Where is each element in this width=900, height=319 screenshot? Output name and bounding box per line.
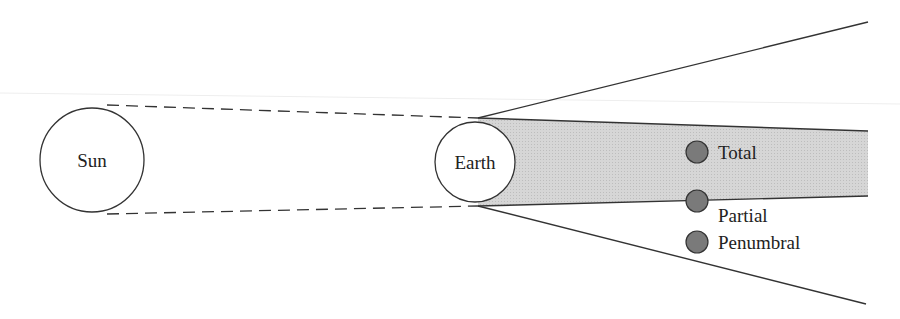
moon-total-label: Total — [718, 142, 757, 163]
penumbra-top-line — [478, 22, 868, 118]
moon-penumbral-icon — [686, 231, 708, 253]
penumbra-bottom-line — [478, 206, 866, 304]
earth: Earth — [435, 122, 515, 202]
moon-penumbral: Penumbral — [686, 231, 800, 253]
tangent-line-bottom — [107, 206, 478, 214]
moon-partial-label: Partial — [718, 205, 768, 226]
moon-partial-icon — [686, 190, 708, 212]
earth-label: Earth — [454, 152, 496, 173]
sun-label: Sun — [77, 150, 107, 171]
tangent-line-top — [107, 105, 478, 118]
background-artifact-line — [0, 93, 900, 104]
moon-total-icon — [686, 141, 708, 163]
moon-total: Total — [686, 141, 757, 163]
moon-penumbral-label: Penumbral — [718, 232, 800, 253]
umbra-region — [478, 118, 868, 206]
sun: Sun — [40, 108, 144, 212]
lunar-eclipse-diagram: Sun Earth Total Partial Penumbral — [0, 0, 900, 319]
